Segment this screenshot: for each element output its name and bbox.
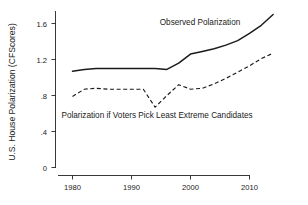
counterfactual-polarization-label: Polarization if Voters Pick Least Extrem… xyxy=(61,111,252,120)
y-tick-label-1-2: 1.2 xyxy=(36,56,47,65)
y-tick-label-0-8: .8 xyxy=(41,92,47,101)
observed-polarization-label: Observed Polarization xyxy=(160,18,241,27)
chart-container: 1.6 1.2 .8 .4 0 1980 1990 2000 2010 U.S.… xyxy=(0,0,308,205)
series-line-counterfactual-polarization xyxy=(73,53,274,107)
y-tick-label-0-4: .4 xyxy=(41,128,47,137)
y-tick-label-1-6: 1.6 xyxy=(36,20,47,29)
x-tick-label-2010: 2010 xyxy=(241,183,258,192)
y-tick-label-0: 0 xyxy=(43,164,47,173)
chart-plot-area: 1.6 1.2 .8 .4 0 1980 1990 2000 2010 U.S.… xyxy=(0,0,308,205)
x-tick-label-1980: 1980 xyxy=(64,183,81,192)
y-axis-title: U.S. House Polarization (CFScores) xyxy=(7,23,17,161)
x-tick-label-1990: 1990 xyxy=(123,183,140,192)
x-tick-label-2000: 2000 xyxy=(182,183,199,192)
